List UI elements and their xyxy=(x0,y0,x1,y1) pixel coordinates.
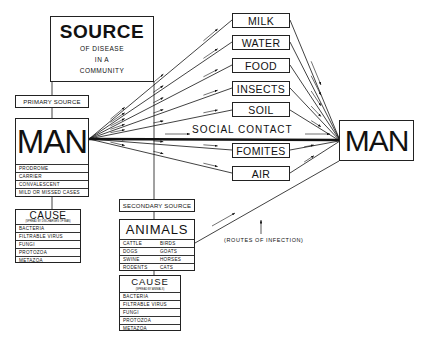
route-water: WATER xyxy=(232,35,290,50)
flow-arrow xyxy=(203,29,217,41)
flow-arrow xyxy=(203,110,217,113)
flow-arrow xyxy=(153,98,163,103)
flow-arrow xyxy=(311,76,321,95)
cause-item-row: METAZOA xyxy=(16,256,80,264)
animal-row: CATTLEBIRDS xyxy=(120,239,194,247)
source-subtitle-1: OF DISEASE xyxy=(51,45,153,52)
animal-name: GOATS xyxy=(160,248,177,255)
primary-cause-subtitle: (SPREAD BY DISCHARGES OF MAN) xyxy=(16,220,80,224)
cause-item-row: PROTOZOA xyxy=(16,248,80,256)
connector-food-to-man xyxy=(290,65,339,139)
source-title: SOURCE xyxy=(51,21,153,43)
cause-item-row: METAZOA xyxy=(120,324,180,332)
cause-item-row: FILTRABLE VIRUS xyxy=(16,232,80,240)
connector-water-to-man xyxy=(290,42,339,139)
animal-name: HORSES xyxy=(160,256,181,263)
flow-arrow xyxy=(153,141,163,142)
secondary-source-label: SECONDARY SOURCE xyxy=(119,199,195,212)
flow-arrow xyxy=(153,86,163,93)
route-food: FOOD xyxy=(232,58,290,73)
primary-cause-box: CAUSE (SPREAD BY DISCHARGES OF MAN) BACT… xyxy=(15,209,81,263)
flow-arrow xyxy=(203,90,217,95)
animal-name: BIRDS xyxy=(160,240,176,247)
man-stage-row: PRODROME xyxy=(16,164,88,172)
animal-name: DOGS xyxy=(123,248,160,255)
animal-row: DOGSGOATS xyxy=(120,247,194,255)
route-insects: INSECTS xyxy=(232,81,290,96)
flow-arrow xyxy=(153,121,163,123)
animal-row: SWINEHORSES xyxy=(120,255,194,263)
connector-milk-to-man xyxy=(290,20,339,138)
flow-arrow xyxy=(203,145,217,146)
route-fomites: FOMITES xyxy=(232,143,290,158)
animal-row: RODENTSCATS xyxy=(120,263,194,271)
cause-item-row: FUNGI xyxy=(120,308,180,316)
animal-name: CATS xyxy=(160,264,173,271)
target-man-box: MAN xyxy=(339,120,414,161)
route-milk: MILK xyxy=(232,13,290,28)
primary-source-label: PRIMARY SOURCE xyxy=(15,95,89,108)
secondary-cause-box: CAUSE (SPREAD BY ANIMALS) BACTERIA FILTR… xyxy=(119,275,181,331)
social-contact-line xyxy=(89,139,339,140)
disease-source-diagram: SOURCE OF DISEASE IN A COMMUNITY PRIMARY… xyxy=(0,0,425,342)
cause-item-row: BACTERIA xyxy=(16,224,80,232)
primary-man-title: MAN xyxy=(16,119,88,164)
connector-fomites-to-man xyxy=(290,141,339,150)
flow-arrow xyxy=(203,163,217,166)
cause-item-row: FUNGI xyxy=(16,240,80,248)
connector-soil-to-man xyxy=(290,110,339,140)
flow-arrow xyxy=(153,109,163,113)
man-stage-row: CONVALESCENT xyxy=(16,180,88,188)
flow-arrow xyxy=(153,151,163,153)
animals-title: ANIMALS xyxy=(120,220,194,239)
animal-name: CATTLE xyxy=(123,240,160,247)
source-subtitle-2: IN A xyxy=(51,56,153,63)
flow-arrow xyxy=(311,106,321,116)
cause-item-row: BACTERIA xyxy=(120,292,180,300)
flow-arrow xyxy=(212,213,235,226)
animals-box: ANIMALS CATTLEBIRDS DOGSGOATS SWINEHORSE… xyxy=(119,219,195,271)
route-air: AIR xyxy=(232,166,290,181)
man-stage-row: MILD OR MISSED CASES xyxy=(16,188,88,196)
route-soil: SOIL xyxy=(232,102,290,117)
cause-item-row: FILTRABLE VIRUS xyxy=(120,300,180,308)
flow-arrow xyxy=(311,61,321,85)
source-box: SOURCE OF DISEASE IN A COMMUNITY xyxy=(50,16,154,82)
man-stage-row: CARRIER xyxy=(16,172,88,180)
social-contact-label: SOCIAL CONTACT xyxy=(190,124,295,135)
connector-air-to-man xyxy=(290,142,339,173)
primary-man-box: MAN PRODROME CARRIER CONVALESCENT MILD O… xyxy=(15,118,89,197)
primary-cause-title: CAUSE xyxy=(16,210,80,220)
secondary-cause-title: CAUSE xyxy=(120,276,180,287)
routes-of-infection-label: (ROUTES OF INFECTION) xyxy=(224,237,304,243)
cause-item-row: PROTOZOA xyxy=(120,316,180,324)
source-subtitle-3: COMMUNITY xyxy=(51,67,153,74)
animal-name: RODENTS xyxy=(123,264,160,271)
animal-name: SWINE xyxy=(123,256,160,263)
